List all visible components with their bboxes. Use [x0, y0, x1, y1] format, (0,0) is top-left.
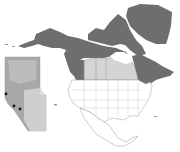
inset-point-1	[5, 93, 8, 96]
alberta-inset	[5, 57, 46, 131]
inset-point-3	[19, 108, 22, 111]
united-states	[68, 80, 152, 122]
hawaii-dots	[54, 104, 57, 106]
north-america-map	[0, 0, 180, 152]
inset-point-2	[13, 105, 16, 108]
quebec-ontario-east-atlantic	[132, 54, 174, 84]
